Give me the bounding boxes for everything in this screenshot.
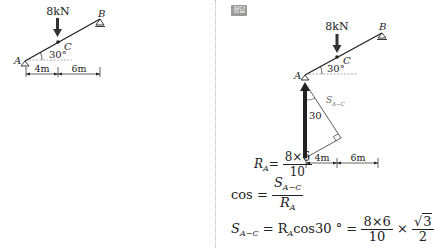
answer-point-c-marker [335, 55, 339, 59]
ra-equals: = [269, 157, 279, 171]
answer-angle-arc [321, 67, 323, 74]
support-a-icon [21, 61, 29, 66]
answer-support-a-icon [301, 75, 309, 80]
answer-point-b-label: B [378, 21, 386, 32]
shear-equation: SA−C = RAcos30 ° = 8×6 10 × √3 2 [231, 215, 434, 244]
problem-figure-panel: 8kN C B A 30° [0, 0, 209, 248]
shear-label-sub: A−C [331, 101, 346, 107]
answer-angle-label: 30° [327, 63, 345, 74]
dimension-left-label: 4m [34, 63, 49, 74]
ra-symbol: R [254, 157, 263, 171]
answer-beam-diagram: 8kN C B A 30° 30 [216, 0, 418, 170]
shear-fraction-1: 8×6 10 [361, 215, 392, 244]
load-label: 8kN [46, 5, 70, 18]
answer-load-label: 8kN [325, 20, 349, 33]
answer-point-a-label: A [293, 70, 301, 81]
problem-beam-diagram: 8kN C B A 30° [0, 0, 209, 124]
angle-arc [41, 53, 43, 60]
answer-panel: 정답 8kN C B A 30° [216, 0, 418, 248]
cos-fraction: SA−C RA [272, 176, 304, 215]
dimension-right-label: 6m [71, 63, 86, 74]
angle-label: 30° [49, 49, 67, 60]
point-b-label: B [97, 8, 105, 19]
answer-dimension-left-label: 4m [314, 152, 329, 163]
cos-lhs: cos = [231, 187, 268, 202]
load-arrow-icon [53, 18, 62, 37]
cos-equation: cos = SA−C RA [231, 176, 303, 215]
ra-equation: RA= 8×6 10 [254, 150, 312, 179]
answer-load-arrow-icon [333, 34, 342, 53]
point-c-marker [56, 40, 60, 44]
support-b-icon [95, 19, 105, 27]
ra-fraction: 8×6 10 [283, 150, 312, 179]
answer-support-b-icon [377, 33, 387, 40]
answer-dimension-right-label: 6m [350, 152, 365, 163]
point-a-label: A [13, 55, 21, 66]
shear-fraction-2: √3 2 [412, 215, 434, 244]
inner-angle-label: 30 [309, 110, 322, 121]
inner-angle-arc [307, 98, 315, 100]
